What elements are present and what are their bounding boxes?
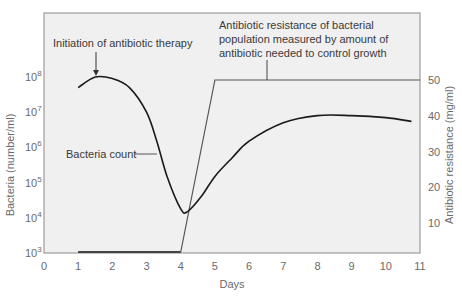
y-axis-right-ticks: 1020304050 [428, 74, 440, 229]
annotation-resistance-line3: antibiotic needed to control growth [219, 47, 387, 59]
annotation-resistance-line1: Antibiotic resistance of bacterial [219, 19, 374, 31]
y-right-tick-label: 10 [428, 217, 440, 229]
x-axis-title: Days [219, 278, 245, 290]
x-tick-label: 3 [143, 260, 149, 272]
x-axis-ticks: 01234567891011 [41, 260, 426, 272]
annotation-therapy-start: Initiation of antibiotic therapy [53, 37, 193, 49]
y-axis-left-title: Bacteria (number/ml) [4, 114, 16, 217]
x-tick-label: 10 [380, 260, 392, 272]
y-right-tick-label: 20 [428, 181, 440, 193]
y-left-tick-label: 106 [25, 139, 42, 153]
y-left-tick-label: 104 [25, 210, 42, 224]
annotation-resistance-line2: population measured by amount of [219, 33, 389, 45]
x-tick-label: 1 [75, 260, 81, 272]
y-axis-right-title: Antibiotic resistance (mg/ml) [443, 86, 455, 224]
y-axis-left-ticks: 103104105106107108 [25, 69, 42, 259]
x-tick-label: 11 [414, 260, 425, 272]
x-tick-label: 6 [246, 260, 252, 272]
annotation-bacteria-count: Bacteria count [66, 148, 136, 160]
x-tick-label: 5 [212, 260, 218, 272]
x-tick-label: 9 [349, 260, 355, 272]
y-left-tick-label: 103 [25, 245, 42, 259]
x-tick-label: 0 [41, 260, 47, 272]
x-tick-label: 8 [314, 260, 320, 272]
y-left-tick-label: 107 [25, 104, 42, 118]
y-right-tick-label: 40 [428, 110, 440, 122]
x-tick-label: 4 [178, 260, 184, 272]
x-tick-label: 7 [280, 260, 286, 272]
y-right-tick-label: 30 [428, 146, 440, 158]
y-left-tick-label: 105 [25, 175, 42, 189]
y-right-tick-label: 50 [428, 74, 440, 86]
chart: 103104105106107108 1020304050 0123456789… [0, 0, 462, 296]
x-tick-label: 2 [109, 260, 115, 272]
y-left-tick-label: 108 [25, 69, 42, 83]
